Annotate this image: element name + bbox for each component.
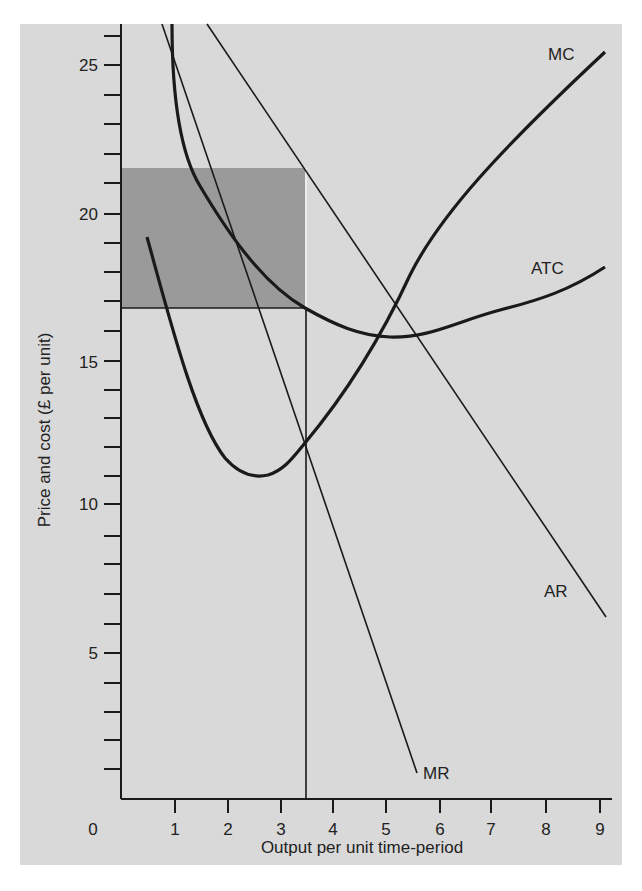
x-tick-label: 5 <box>381 820 390 839</box>
mr-label: MR <box>423 764 449 783</box>
mr-curve <box>162 24 417 773</box>
y-tick-label: 25 <box>79 56 98 75</box>
x-tick-label: 7 <box>486 820 495 839</box>
y-axis-title: Price and cost (£ per unit) <box>35 333 54 528</box>
y-tick-label: 15 <box>79 353 98 372</box>
atc-label: ATC <box>531 259 564 278</box>
ar-label: AR <box>544 582 568 601</box>
x-tick-label: 2 <box>223 820 232 839</box>
x-tick-label: 0 <box>88 820 97 839</box>
x-tick-label: 9 <box>595 820 604 839</box>
x-axis-title: Output per unit time-period <box>261 838 463 857</box>
chart-svg: 25 20 15 10 5 0 1 2 3 4 5 6 7 8 9 Output… <box>0 0 642 891</box>
x-tick-label: 8 <box>541 820 550 839</box>
x-tick-label: 6 <box>435 820 444 839</box>
y-tick-label: 10 <box>79 495 98 514</box>
y-tick-label: 20 <box>79 205 98 224</box>
x-tick-label: 3 <box>276 820 285 839</box>
mc-label: MC <box>548 45 574 64</box>
y-tick-label: 5 <box>89 644 98 663</box>
y-ticks <box>104 36 121 769</box>
x-tick-label: 1 <box>170 820 179 839</box>
ar-curve <box>207 24 606 617</box>
x-ticks <box>175 799 600 813</box>
x-tick-label: 4 <box>328 820 337 839</box>
